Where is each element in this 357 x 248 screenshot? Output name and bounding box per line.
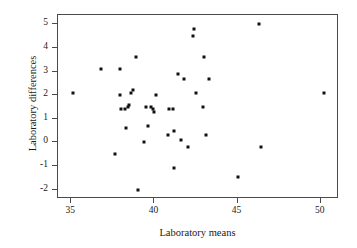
y-axis-tick	[52, 165, 57, 166]
data-point	[145, 106, 148, 109]
x-axis-tick	[320, 198, 321, 203]
data-point	[143, 141, 146, 144]
data-point	[258, 23, 261, 26]
y-axis-tick	[52, 23, 57, 24]
x-axis-tick	[70, 198, 71, 203]
data-point	[203, 56, 206, 59]
data-point	[153, 110, 156, 113]
data-point	[236, 175, 239, 178]
data-point	[125, 127, 128, 130]
data-point	[259, 146, 262, 149]
x-axis-tick-label: 35	[55, 206, 85, 216]
scatter-plot-figure: -2-101234535404550 Laboratory means Labo…	[0, 0, 357, 248]
x-axis-tick-label: 40	[138, 206, 168, 216]
data-point	[135, 56, 138, 59]
y-axis-title: Laboratory differences	[27, 12, 38, 196]
data-point	[176, 72, 179, 75]
x-axis-tick-label: 45	[222, 206, 252, 216]
data-point	[180, 139, 183, 142]
data-point	[191, 35, 194, 38]
y-axis-tick	[52, 94, 57, 95]
data-point	[204, 134, 207, 137]
data-point	[155, 94, 158, 97]
data-point	[195, 91, 198, 94]
y-axis-tick	[52, 118, 57, 119]
data-point	[113, 153, 116, 156]
data-point	[186, 146, 189, 149]
data-point	[193, 28, 196, 31]
y-axis-tick	[52, 71, 57, 72]
data-point	[128, 103, 131, 106]
data-point	[208, 77, 211, 80]
data-point	[171, 108, 174, 111]
x-axis-tick	[153, 198, 154, 203]
x-axis-tick	[237, 198, 238, 203]
y-axis-tick	[52, 141, 57, 142]
data-point	[100, 68, 103, 71]
x-axis-tick-label: 50	[305, 206, 335, 216]
data-point	[146, 124, 149, 127]
data-point	[173, 167, 176, 170]
data-point	[118, 68, 121, 71]
y-axis-tick	[52, 189, 57, 190]
data-point	[131, 89, 134, 92]
data-point	[183, 77, 186, 80]
data-points-layer	[58, 15, 337, 197]
data-point	[71, 91, 74, 94]
data-point	[118, 94, 121, 97]
data-point	[323, 91, 326, 94]
plot-frame	[57, 14, 338, 198]
x-axis-title: Laboratory means	[57, 227, 338, 238]
y-axis-tick	[52, 47, 57, 48]
data-point	[136, 188, 139, 191]
data-point	[166, 134, 169, 137]
data-point	[173, 129, 176, 132]
data-point	[201, 106, 204, 109]
